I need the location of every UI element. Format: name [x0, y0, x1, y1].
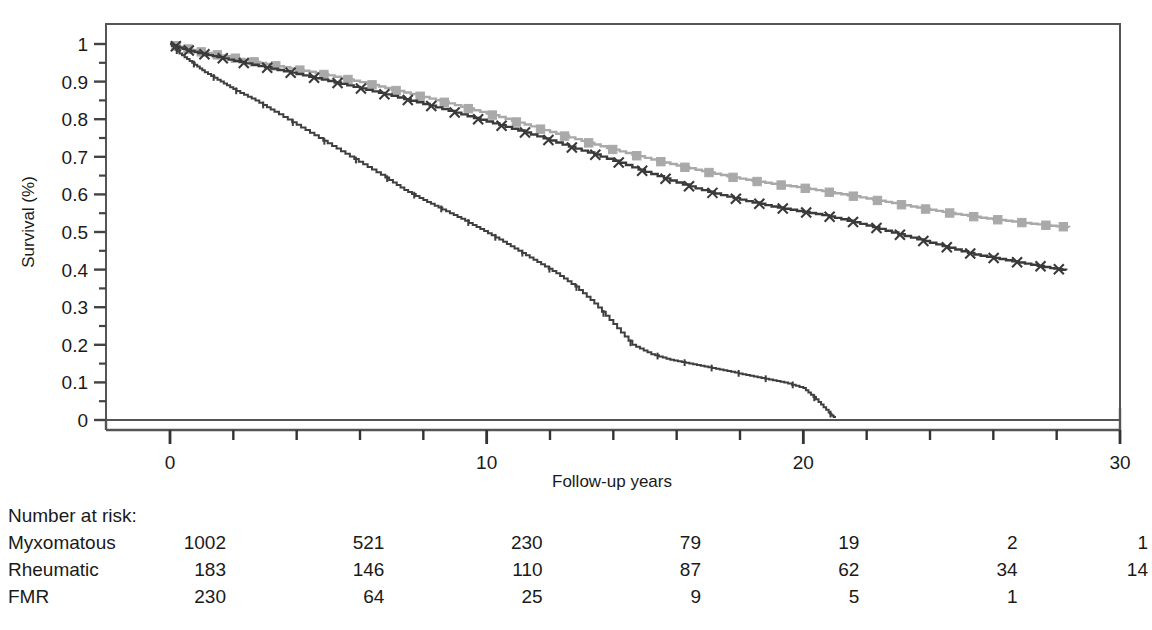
risk-cell: 146: [353, 559, 385, 580]
number-at-risk-table: Number at risk:Myxomatous100252123079192…: [8, 505, 1148, 607]
risk-cell: 1: [1007, 586, 1018, 607]
censor-marker-square: [488, 111, 496, 119]
censor-marker-square: [970, 212, 978, 220]
risk-cell: 1002: [184, 532, 226, 553]
y-tick-label: 0: [77, 410, 88, 431]
x-axis-title: Follow-up years: [552, 472, 672, 491]
risk-cell: 34: [997, 559, 1019, 580]
x-tick-label: 30: [1109, 452, 1130, 473]
plot-frame: [106, 24, 1120, 420]
risk-cell: 5: [849, 586, 860, 607]
censor-marker-square: [1059, 223, 1067, 231]
censor-marker-square: [945, 209, 953, 217]
risk-cell: 2: [1007, 532, 1018, 553]
censor-marker-square: [657, 157, 665, 165]
censor-marker-square: [609, 145, 617, 153]
y-tick-label: 0.4: [62, 260, 89, 281]
censor-marker-square: [753, 177, 761, 185]
censor-marker-square: [681, 163, 689, 171]
censor-marker-square: [777, 181, 785, 189]
censor-marker-square: [368, 81, 376, 89]
y-tick-label: 0.6: [62, 184, 88, 205]
risk-cell: 9: [690, 586, 701, 607]
censor-marker-square: [1042, 221, 1050, 229]
censor-marker-square: [705, 168, 713, 176]
censor-marker-square: [536, 125, 544, 133]
risk-cell: 110: [512, 559, 542, 580]
y-tick-label: 0.5: [62, 222, 88, 243]
x-tick-label: 10: [476, 452, 497, 473]
censor-marker-square: [440, 98, 448, 106]
y-tick-label: 0.7: [62, 147, 88, 168]
censor-marker-square: [392, 86, 400, 94]
censor-marker-square: [344, 75, 352, 83]
risk-cell: 1: [1137, 532, 1148, 553]
risk-cell: 14: [1127, 559, 1149, 580]
risk-cell: 87: [680, 559, 701, 580]
y-tick-label: 0.1: [62, 372, 88, 393]
risk-cell: 25: [522, 586, 543, 607]
censor-marker-square: [416, 92, 424, 100]
censor-marker-square: [729, 173, 737, 181]
risk-cell: 62: [838, 559, 859, 580]
censor-marker-square: [897, 201, 905, 209]
censor-marker-square: [464, 104, 472, 112]
censor-marker-square: [584, 139, 592, 147]
y-axis-title: Survival (%): [19, 176, 38, 268]
risk-cell: 79: [680, 532, 701, 553]
censor-marker-square: [1018, 218, 1026, 226]
y-tick-label: 0.2: [62, 335, 88, 356]
y-tick-label: 0.3: [62, 297, 88, 318]
y-axis: 00.10.20.30.40.50.60.70.80.91: [62, 34, 106, 431]
risk-cell: 19: [838, 532, 859, 553]
censor-marker-square: [994, 216, 1002, 224]
censor-marker-square: [825, 188, 833, 196]
survival-chart-figure: 00.10.20.30.40.50.60.70.80.91 0102030 Su…: [0, 0, 1152, 630]
y-tick-label: 1: [77, 34, 88, 55]
risk-cell: 521: [353, 532, 385, 553]
risk-cell: 230: [194, 586, 226, 607]
censor-marker-square: [849, 192, 857, 200]
y-tick-label: 0.9: [62, 72, 88, 93]
censor-marker-square: [512, 118, 520, 126]
censor-marker-square: [873, 196, 881, 204]
risk-cell: 64: [363, 586, 385, 607]
censor-marker-square: [801, 184, 809, 192]
risk-cell: 230: [511, 532, 543, 553]
censor-marker-square: [921, 205, 929, 213]
risk-row-label: Rheumatic: [8, 559, 99, 580]
x-tick-label: 0: [165, 452, 176, 473]
y-tick-label: 0.8: [62, 109, 88, 130]
plot-area-border: [106, 24, 1120, 420]
risk-row-label: Myxomatous: [8, 532, 116, 553]
x-tick-label: 20: [793, 452, 814, 473]
risk-table-header: Number at risk:: [8, 505, 137, 526]
censor-marker-square: [560, 132, 568, 140]
risk-row-label: FMR: [8, 586, 49, 607]
censor-marker-square: [633, 152, 641, 160]
risk-cell: 183: [194, 559, 226, 580]
chart-canvas: 00.10.20.30.40.50.60.70.80.91 0102030 Su…: [0, 0, 1152, 630]
